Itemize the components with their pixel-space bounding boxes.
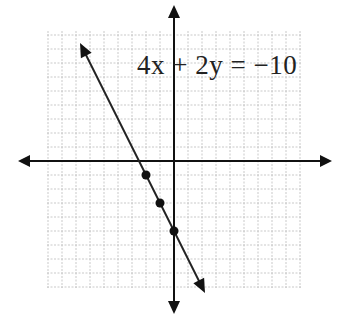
plotted-points [142,171,179,236]
equation-label: 4x + 2y = −10 [137,50,297,81]
coordinate-plane [0,0,338,324]
